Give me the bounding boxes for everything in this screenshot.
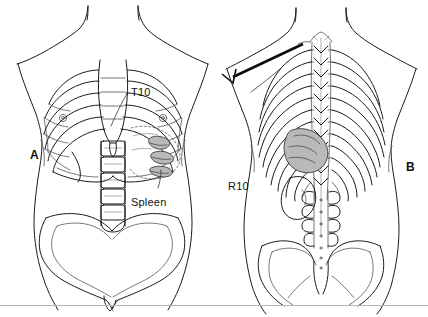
panel-label-a: A bbox=[30, 148, 39, 162]
pelvis-posterior bbox=[258, 241, 383, 306]
lumbar-spine-anterior bbox=[101, 141, 125, 232]
panel-b-illustration bbox=[214, 0, 428, 317]
sternum bbox=[98, 60, 127, 157]
figure-root: T10 Spleen A R10 B bbox=[0, 0, 428, 317]
spleen-label: Spleen bbox=[131, 196, 166, 208]
t10-leader-line bbox=[111, 92, 128, 126]
pelvis-anterior bbox=[39, 214, 185, 311]
spleen-organ-posterior bbox=[284, 129, 328, 173]
t10-label: T10 bbox=[131, 86, 151, 98]
rib-cage-right-posterior bbox=[332, 50, 385, 201]
panel-label-b: B bbox=[406, 160, 415, 174]
r10-leader-line bbox=[251, 68, 281, 92]
rib-cage-left-posterior bbox=[258, 50, 311, 201]
r10-label: R10 bbox=[228, 180, 249, 192]
bottom-rule bbox=[0, 305, 428, 306]
